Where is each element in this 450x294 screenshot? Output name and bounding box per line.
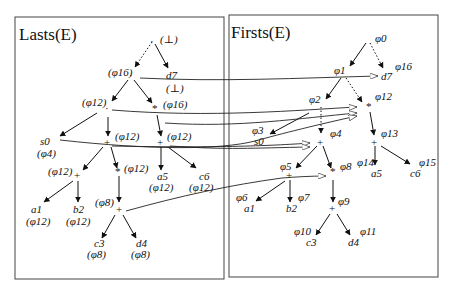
firsts-c3-label: c3 bbox=[306, 236, 317, 248]
lasts-plusC-ann: (φ12) bbox=[48, 165, 73, 178]
lasts-a5-ann: (φ12) bbox=[149, 181, 174, 194]
lasts-s0-label: s0 bbox=[40, 135, 50, 147]
lasts-plusE-node: + bbox=[116, 203, 122, 215]
firsts-nodes: φ0 φ1 d7 φ16 φ2 * φ12 φ3 s0 + φ4 + φ13 φ… bbox=[236, 32, 437, 248]
lasts-root-node: · bbox=[150, 35, 154, 47]
firsts-p4-node: + bbox=[317, 136, 323, 148]
firsts-a1-label: a1 bbox=[244, 202, 255, 214]
firsts-p1-ann: φ1 bbox=[334, 64, 346, 76]
lasts-a1-label: a1 bbox=[31, 203, 42, 215]
lasts-c3-ann: (φ8) bbox=[87, 248, 106, 261]
lasts-dotD-ann: (φ12) bbox=[124, 162, 149, 175]
lasts-plusB-ann: (φ12) bbox=[167, 130, 192, 143]
lasts-root-ann: (⊥) bbox=[160, 33, 178, 46]
firsts-c6-label: c6 bbox=[410, 167, 421, 179]
lasts-dotD-node: * bbox=[115, 165, 121, 177]
lasts-plusB-node: + bbox=[157, 136, 163, 148]
lasts-title: Lasts(E) bbox=[19, 25, 77, 44]
lasts-star-ann: (φ16) bbox=[163, 98, 188, 111]
firsts-p13-ann: φ13 bbox=[381, 127, 399, 139]
firsts-p4-ann: φ4 bbox=[330, 127, 342, 139]
firsts-p2-ann: φ2 bbox=[309, 93, 321, 105]
lasts-s0-ann: (φ4) bbox=[37, 147, 56, 160]
lasts-d7-ann: (⊥) bbox=[166, 82, 184, 95]
firsts-p9-node: + bbox=[329, 202, 335, 214]
lasts-n16-ann: (φ16) bbox=[108, 66, 133, 79]
firsts-p13-node: + bbox=[371, 136, 377, 148]
firsts-p9-ann: φ9 bbox=[338, 195, 350, 207]
lasts-plusA-ann: (φ12) bbox=[115, 130, 140, 143]
firsts-a5-label: a5 bbox=[371, 167, 383, 179]
firsts-b2-ann: φ7 bbox=[298, 191, 310, 203]
firsts-d4-ann: φ11 bbox=[360, 225, 376, 237]
firsts-title: Firsts(E) bbox=[231, 23, 291, 42]
firsts-p8-ann: φ8 bbox=[340, 160, 352, 172]
firsts-p12-node: * bbox=[366, 100, 372, 112]
firsts-p8-node: * bbox=[330, 165, 336, 177]
lasts-a1-ann: (φ12) bbox=[26, 215, 51, 228]
lasts-plusA-node: + bbox=[104, 136, 110, 148]
firsts-d4-label: d4 bbox=[348, 236, 360, 248]
lasts-d4-ann: (φ8) bbox=[131, 248, 150, 261]
lasts-b2-label: b2 bbox=[73, 203, 85, 215]
firsts-d7-ann: φ16 bbox=[395, 60, 413, 72]
firsts-root-ann: φ0 bbox=[375, 32, 387, 44]
lasts-b2-ann: (φ12) bbox=[66, 215, 91, 228]
firsts-d7-label: d7 bbox=[381, 70, 393, 82]
lasts-n12-ann: (φ12) bbox=[82, 96, 107, 109]
diagram-canvas: Lasts(E) Firsts(E) · (⊥) · (φ16) d7 (⊥) … bbox=[0, 0, 450, 294]
firsts-p5-node: + bbox=[286, 169, 292, 181]
firsts-p12-ann: φ12 bbox=[375, 90, 393, 102]
firsts-b2-label: b2 bbox=[286, 202, 298, 214]
lasts-plusC-node: + bbox=[74, 169, 80, 181]
firsts-c6-ann: φ15 bbox=[419, 156, 437, 168]
lasts-plusE-ann: (φ8) bbox=[95, 196, 114, 209]
